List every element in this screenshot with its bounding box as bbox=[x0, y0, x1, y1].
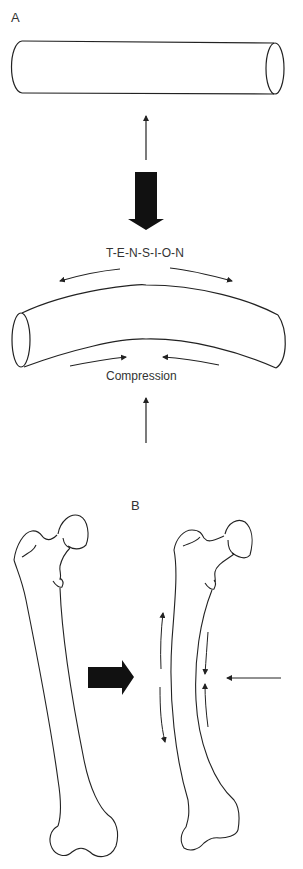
bent-cylinder bbox=[12, 285, 285, 368]
straight-cylinder bbox=[12, 41, 285, 94]
figure: A T-E-N-S-I-O-N Compression B bbox=[0, 0, 303, 869]
femur-bowed bbox=[171, 521, 252, 851]
diagram-canvas bbox=[0, 0, 303, 869]
bold-right-arrow-icon bbox=[88, 660, 134, 695]
tension-arrows-lateral bbox=[160, 613, 165, 742]
tension-arrows bbox=[60, 268, 232, 281]
bold-down-arrow-icon bbox=[128, 172, 164, 230]
compression-arrows bbox=[70, 357, 219, 366]
compression-arrows-medial bbox=[205, 632, 208, 727]
